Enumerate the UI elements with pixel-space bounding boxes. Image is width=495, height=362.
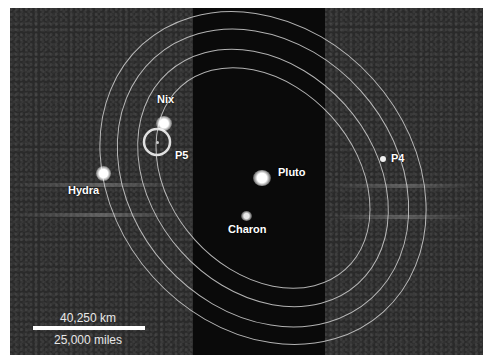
orbit-paths (10, 8, 483, 355)
p5-label: P5 (175, 149, 188, 161)
pluto-dot (253, 170, 271, 186)
nix-dot (156, 116, 172, 131)
hydra-dot (96, 166, 111, 181)
p4-dot (380, 156, 386, 162)
charon-dot (241, 211, 252, 221)
pluto-system-image: Pluto Charon Nix Hydra P4 P5 40,250 km 2… (10, 8, 483, 355)
hydra-label: Hydra (68, 184, 99, 196)
nix-label: Nix (157, 93, 174, 105)
scale-bar (33, 326, 145, 330)
scale-miles-label: 25,000 miles (54, 333, 122, 347)
scale-km-label: 40,250 km (60, 311, 116, 325)
pluto-label: Pluto (278, 166, 306, 178)
p5-dot (156, 141, 159, 144)
charon-label: Charon (228, 223, 267, 235)
p4-label: P4 (391, 152, 404, 164)
